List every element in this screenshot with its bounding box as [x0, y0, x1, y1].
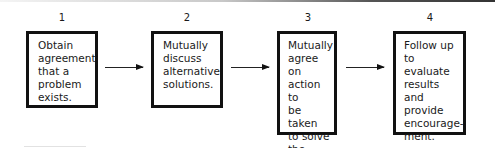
top-rule — [0, 0, 495, 2]
step-box-2: Mutually discuss alternative solutions. — [151, 31, 223, 108]
step-text-3: Mutually agree on action to be taken to … — [288, 39, 331, 148]
bottom-rule — [24, 146, 86, 147]
step-box-3: Mutually agree on action to be taken to … — [277, 31, 337, 135]
step-number-3: 3 — [298, 12, 318, 23]
step-box-4: Follow up to evaluate results and provid… — [393, 31, 466, 135]
arrow-2-to-3 — [231, 67, 269, 68]
step-text-1: Obtain agreement that a problem exists. — [38, 39, 88, 104]
step-number-1: 1 — [52, 12, 72, 23]
step-text-2: Mutually discuss alternative solutions. — [163, 39, 213, 91]
step-box-1: Obtain agreement that a problem exists. — [26, 31, 98, 108]
step-number-2: 2 — [177, 12, 197, 23]
arrow-3-to-4 — [346, 67, 384, 68]
step-text-4: Follow up to evaluate results and provid… — [404, 39, 456, 143]
step-number-4: 4 — [420, 12, 440, 23]
arrow-1-to-2 — [105, 67, 143, 68]
